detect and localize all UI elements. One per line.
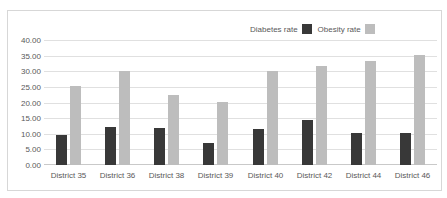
legend-label-diabetes: Diabetes rate <box>250 25 298 34</box>
gridline-20.00 <box>44 103 437 104</box>
plot-area <box>44 40 437 165</box>
legend-swatch-diabetes-icon <box>302 24 312 34</box>
chart-frame: Diabetes rate Obesity rate 0.005.0010.00… <box>7 10 442 191</box>
gridline-35.00 <box>44 56 437 57</box>
gridline-5.00 <box>44 149 437 150</box>
y-tick-label: 35.00 <box>10 52 41 61</box>
gridline-10.00 <box>44 134 437 135</box>
y-tick-label: 15.00 <box>10 114 41 123</box>
bar-diabetes-rate-district-38 <box>154 128 165 165</box>
bar-diabetes-rate-district-40 <box>253 129 264 165</box>
legend-item-obesity: Obesity rate <box>318 24 375 34</box>
gridline-15.00 <box>44 118 437 119</box>
bar-diabetes-rate-district-42 <box>302 120 313 165</box>
bar-obesity-rate-district-35 <box>70 86 81 165</box>
gridline-25.00 <box>44 87 437 88</box>
x-tick-label-district-39: District 39 <box>191 171 240 181</box>
x-tick-label-district-42: District 42 <box>290 171 339 181</box>
x-tick-label-district-40: District 40 <box>241 171 290 181</box>
legend-label-obesity: Obesity rate <box>318 25 361 34</box>
gridline-30.00 <box>44 71 437 72</box>
bar-diabetes-rate-district-44 <box>351 133 362 165</box>
bar-obesity-rate-district-42 <box>316 66 327 165</box>
y-tick-label: 30.00 <box>10 67 41 76</box>
bar-diabetes-rate-district-35 <box>56 135 67 165</box>
x-tick-label-district-36: District 36 <box>93 171 142 181</box>
x-tick-label-district-46: District 46 <box>388 171 437 181</box>
bar-diabetes-rate-district-39 <box>203 143 214 165</box>
gridline-0.00 <box>44 164 437 165</box>
x-tick-label-district-35: District 35 <box>44 171 93 181</box>
y-tick-label: 40.00 <box>10 36 41 45</box>
y-tick-label: 25.00 <box>10 83 41 92</box>
bar-obesity-rate-district-38 <box>168 95 179 165</box>
legend-swatch-obesity-icon <box>365 24 375 34</box>
y-tick-label: 20.00 <box>10 99 41 108</box>
bar-obesity-rate-district-46 <box>414 55 425 165</box>
y-tick-label: 5.00 <box>10 145 41 154</box>
bar-obesity-rate-district-44 <box>365 61 376 165</box>
bar-obesity-rate-district-40 <box>267 71 278 165</box>
legend: Diabetes rate Obesity rate <box>250 23 375 35</box>
bar-diabetes-rate-district-36 <box>105 127 116 165</box>
y-tick-label: 10.00 <box>10 130 41 139</box>
legend-item-diabetes: Diabetes rate <box>250 24 312 34</box>
y-tick-label: 0.00 <box>10 161 41 170</box>
bar-diabetes-rate-district-46 <box>400 133 411 165</box>
x-tick-label-district-38: District 38 <box>142 171 191 181</box>
bar-obesity-rate-district-39 <box>217 102 228 165</box>
chart-window: Diabetes rate Obesity rate 0.005.0010.00… <box>0 0 447 198</box>
x-tick-label-district-44: District 44 <box>339 171 388 181</box>
bar-obesity-rate-district-36 <box>119 71 130 165</box>
gridline-40.00 <box>44 40 437 41</box>
